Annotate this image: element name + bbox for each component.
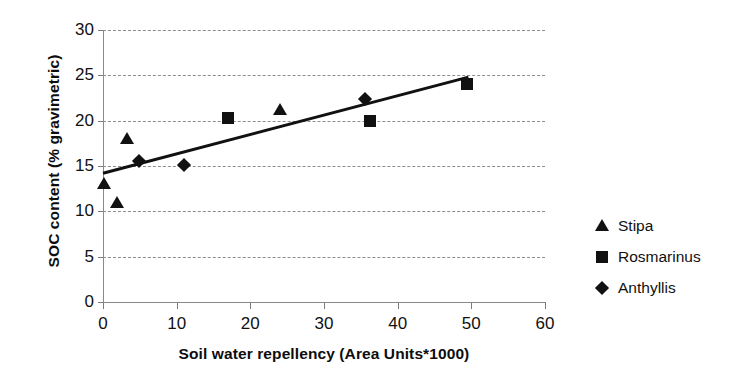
x-tick-mark bbox=[250, 302, 251, 309]
data-point-square bbox=[364, 115, 376, 127]
x-tick-mark bbox=[324, 302, 325, 309]
trendline bbox=[103, 30, 545, 302]
legend-item-label: Rosmarinus bbox=[618, 248, 701, 266]
x-tick-mark bbox=[103, 302, 104, 309]
data-point-square bbox=[222, 112, 234, 124]
y-tick-label: 30 bbox=[75, 20, 94, 40]
scatter-chart: SOC content (% gravimetric) Soil water r… bbox=[0, 0, 742, 387]
square-icon bbox=[592, 247, 612, 267]
legend-item-label: Stipa bbox=[618, 217, 653, 235]
x-tick-label: 60 bbox=[536, 314, 555, 334]
plot-area: 051015202530 0102030405060 bbox=[103, 30, 545, 302]
y-tick-label: 5 bbox=[85, 247, 94, 267]
x-tick-mark bbox=[545, 302, 546, 309]
legend-item-anthyllis[interactable]: Anthyllis bbox=[592, 272, 737, 303]
diamond-icon bbox=[592, 278, 612, 298]
x-tick-label: 20 bbox=[241, 314, 260, 334]
y-tick-label: 0 bbox=[85, 292, 94, 312]
x-axis-title: Soil water repellency (Area Units*1000) bbox=[103, 345, 545, 363]
y-tick-label: 10 bbox=[75, 201, 94, 221]
y-tick-label: 25 bbox=[75, 65, 94, 85]
x-tick-label: 40 bbox=[388, 314, 407, 334]
x-axis-line bbox=[103, 302, 545, 303]
data-point-square bbox=[461, 78, 473, 90]
data-point-triangle bbox=[110, 196, 124, 208]
triangle-icon bbox=[592, 216, 612, 236]
y-tick-label: 15 bbox=[75, 156, 94, 176]
y-axis-title: SOC content (% gravimetric) bbox=[45, 11, 63, 311]
x-tick-label: 0 bbox=[98, 314, 107, 334]
legend-item-stipa[interactable]: Stipa bbox=[592, 210, 737, 241]
legend-item-rosmarinus[interactable]: Rosmarinus bbox=[592, 241, 737, 272]
x-tick-mark bbox=[471, 302, 472, 309]
triangle-marker bbox=[595, 219, 609, 231]
square-marker bbox=[596, 251, 608, 263]
x-tick-label: 30 bbox=[315, 314, 334, 334]
legend-item-label: Anthyllis bbox=[618, 279, 676, 297]
data-point-triangle bbox=[120, 132, 134, 144]
data-point-triangle bbox=[97, 177, 111, 189]
data-point-triangle bbox=[273, 103, 287, 115]
x-tick-mark bbox=[398, 302, 399, 309]
x-tick-label: 50 bbox=[462, 314, 481, 334]
diamond-marker bbox=[595, 280, 609, 294]
legend: StipaRosmarinusAnthyllis bbox=[592, 210, 737, 303]
x-tick-label: 10 bbox=[167, 314, 186, 334]
x-tick-mark bbox=[177, 302, 178, 309]
y-tick-label: 20 bbox=[75, 111, 94, 131]
